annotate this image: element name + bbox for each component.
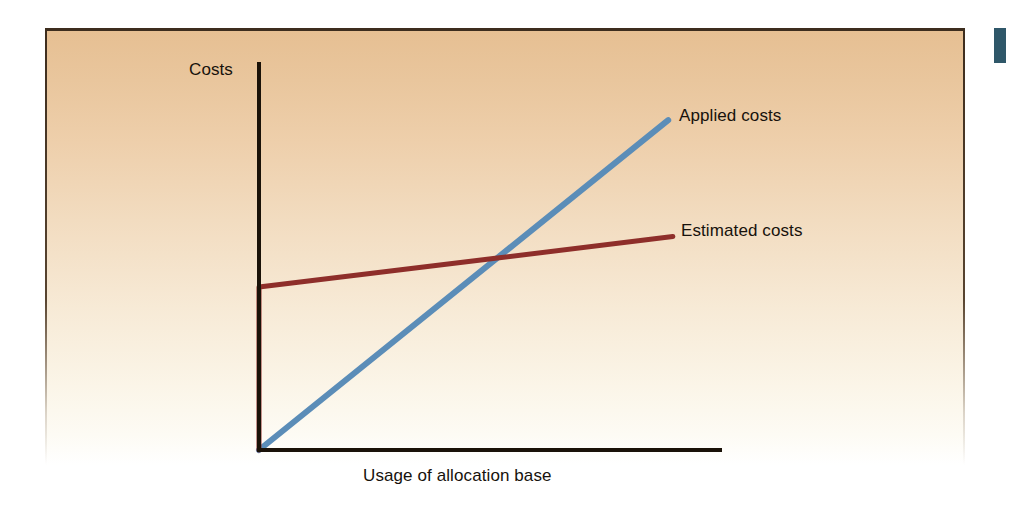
y-axis-label: Costs bbox=[189, 60, 233, 80]
panel-border-right bbox=[963, 28, 965, 465]
figure-panel bbox=[45, 28, 965, 465]
panel-border-top bbox=[45, 28, 965, 31]
y-axis-line bbox=[257, 62, 261, 452]
page-edge-mark bbox=[994, 28, 1006, 63]
panel-border-left bbox=[45, 28, 47, 465]
series-label-applied-costs: Applied costs bbox=[679, 106, 781, 126]
series-label-estimated-costs: Estimated costs bbox=[681, 221, 803, 241]
x-axis-line bbox=[257, 448, 722, 452]
x-axis-label: Usage of allocation base bbox=[363, 466, 552, 486]
